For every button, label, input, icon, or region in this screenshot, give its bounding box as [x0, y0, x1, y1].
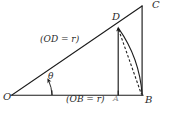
angle-arc-theta: [49, 80, 52, 95]
line-O-to-C: [12, 6, 142, 95]
point-label-A: A: [113, 95, 119, 103]
segment-label-OD: (OD = r): [40, 35, 79, 44]
point-label-D: D: [112, 12, 120, 22]
dashed-chord-D-to-B: [119, 30, 142, 95]
segment-label-OB: (OB = r): [66, 95, 105, 104]
point-label-C: C: [152, 0, 160, 10]
point-label-O: O: [3, 92, 11, 102]
angle-label-theta: θ: [48, 72, 53, 81]
point-label-B: B: [145, 95, 153, 105]
geometry-figure: O B C D A (OD = r) (OB = r) θ: [0, 0, 169, 120]
